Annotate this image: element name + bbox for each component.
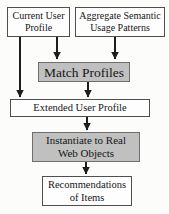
node-recommendations-of-items-label: Recommendations of Items bbox=[48, 178, 126, 204]
node-match-profiles-label: Match Profiles bbox=[44, 65, 124, 80]
node-instantiate-to-real-web-objects-label: Instantiate to Real Web Objects bbox=[46, 134, 126, 160]
node-aggregate-semantic-usage-patterns-label: Aggregate Semantic Usage Patterns bbox=[79, 10, 160, 34]
node-match-profiles: Match Profiles bbox=[38, 62, 130, 82]
node-recommendations-of-items: Recommendations of Items bbox=[42, 176, 132, 206]
node-instantiate-to-real-web-objects: Instantiate to Real Web Objects bbox=[32, 132, 140, 162]
node-extended-user-profile-label: Extended User Profile bbox=[33, 102, 126, 114]
recommendation-flow-diagram: Current User Profile Aggregate Semantic … bbox=[0, 0, 169, 214]
node-current-user-profile: Current User Profile bbox=[7, 7, 70, 37]
node-aggregate-semantic-usage-patterns: Aggregate Semantic Usage Patterns bbox=[75, 7, 165, 37]
node-current-user-profile-label: Current User Profile bbox=[13, 10, 65, 34]
node-extended-user-profile: Extended User Profile bbox=[10, 99, 150, 117]
